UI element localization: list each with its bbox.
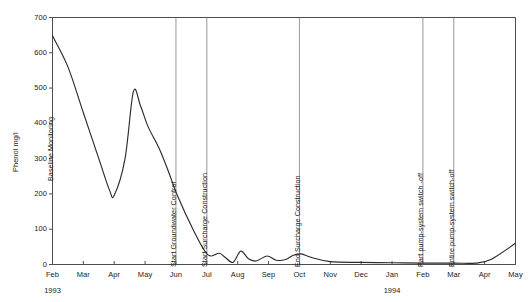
y-tick-label: 0	[14, 260, 47, 269]
x-tick-label: May	[129, 270, 161, 279]
annotation-label: End Surcharge Construction	[293, 175, 302, 267]
x-tick-label: Nov	[314, 270, 346, 279]
x-tick-label: Aug	[222, 270, 254, 279]
y-tick-label: 600	[14, 48, 47, 57]
x-tick-label: Dec	[345, 270, 377, 279]
y-tick-label: 400	[14, 118, 47, 127]
x-tick-label: Jan	[376, 270, 408, 279]
x-tick-label: Mar	[67, 270, 99, 279]
annotation-lines	[176, 18, 454, 265]
x-tick-label: Jul	[191, 270, 223, 279]
x-tick-label: Sep	[253, 270, 285, 279]
x-tick-label: Feb	[407, 270, 439, 279]
annotation-label: Start Surcharge Construction	[200, 173, 209, 267]
y-tick-label: 200	[14, 189, 47, 198]
x-tick-label: Feb	[37, 270, 69, 279]
y-axis-title: Phenol mg/l	[11, 132, 20, 172]
y-tick-label: 500	[14, 83, 47, 92]
annotation-label: Part pump-system switch -off	[416, 173, 425, 267]
y-tick-label: 300	[14, 154, 47, 163]
y-tick-label: 700	[14, 13, 47, 22]
x-axis-year-label: 1994	[376, 286, 408, 295]
x-tick-label: Apr	[98, 270, 130, 279]
x-tick-label: Oct	[283, 270, 315, 279]
x-tick-label: Apr	[469, 270, 501, 279]
phenol-concentration-chart: Phenol mg/l 0100200300400500600700FebMar…	[0, 0, 532, 302]
annotation-label: Entire pump-system switch-off	[447, 169, 456, 267]
x-tick-label: Jun	[160, 270, 192, 279]
x-axis-year-label: 1993	[37, 286, 69, 295]
y-tick-label: 100	[14, 224, 47, 233]
x-tick-label: Mar	[438, 270, 470, 279]
annotation-label: Start Groundwater Control	[169, 182, 178, 267]
annotation-label-baseline: Baseline Monitoring	[46, 117, 55, 181]
x-tick-label: May	[500, 270, 532, 279]
